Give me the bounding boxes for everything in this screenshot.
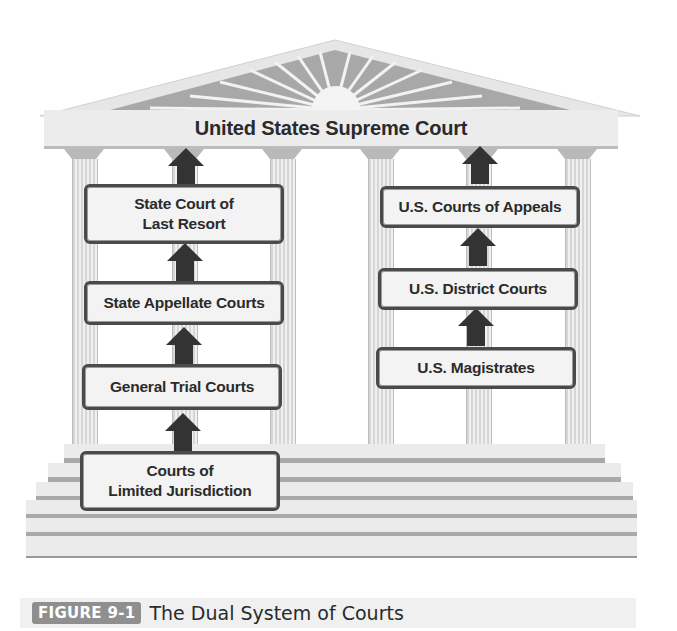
- box-label-line1: General Trial Courts: [110, 377, 254, 397]
- us-magistrates: U.S. Magistrates: [376, 347, 576, 389]
- figure-label: FIGURE 9-1: [32, 602, 141, 624]
- step: [26, 536, 637, 558]
- figure-caption: FIGURE 9-1 The Dual System of Courts: [20, 598, 636, 628]
- arrow-up-icon: [168, 148, 204, 186]
- us-courts-of-appeals: U.S. Courts of Appeals: [380, 186, 580, 228]
- arrow-up-icon: [166, 327, 202, 365]
- box-label-line1: Courts of: [146, 461, 213, 481]
- box-label-line1: U.S. Courts of Appeals: [399, 197, 562, 217]
- column-capital: [262, 149, 302, 159]
- pediment: [40, 38, 640, 118]
- arrow-up-icon: [460, 228, 496, 266]
- figure-title: The Dual System of Courts: [149, 602, 403, 624]
- courts-of-limited-jurisdiction: Courts of Limited Jurisdiction: [80, 451, 280, 511]
- box-label-line2: Limited Jurisdiction: [108, 481, 251, 501]
- box-label-line1: U.S. District Courts: [409, 279, 547, 299]
- box-label-line1: State Appellate Courts: [103, 293, 264, 313]
- column-capital: [557, 149, 597, 159]
- supreme-court-title: United States Supreme Court: [195, 117, 467, 140]
- general-trial-courts: General Trial Courts: [82, 364, 282, 410]
- arrow-up-icon: [165, 413, 201, 451]
- state-appellate-courts: State Appellate Courts: [84, 281, 284, 325]
- arrow-up-icon: [458, 308, 494, 346]
- us-district-courts: U.S. District Courts: [378, 268, 578, 310]
- column-capital: [64, 149, 104, 159]
- box-label-line2: Last Resort: [142, 214, 225, 234]
- box-label-line1: U.S. Magistrates: [417, 358, 534, 378]
- state-court-of-last-resort: State Court of Last Resort: [84, 184, 284, 244]
- step: [26, 518, 637, 537]
- arrow-up-icon: [167, 243, 203, 281]
- entablature: United States Supreme Court: [44, 110, 618, 149]
- column-capital: [360, 149, 400, 159]
- arrow-up-icon: [462, 146, 498, 184]
- box-label-line1: State Court of: [134, 194, 234, 214]
